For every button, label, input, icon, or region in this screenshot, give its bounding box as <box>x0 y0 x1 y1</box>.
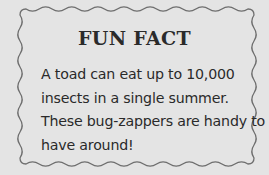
fact-line: have around! <box>41 134 256 158</box>
card-title: FUN FACT <box>0 27 269 49</box>
fact-line: These bug-zappers are handy to <box>41 110 256 134</box>
fact-line: A toad can eat up to 10,000 <box>41 63 256 87</box>
fun-fact-text: A toad can eat up to 10,000 insects in a… <box>41 63 256 157</box>
fact-line: insects in a single summer. <box>41 87 256 111</box>
